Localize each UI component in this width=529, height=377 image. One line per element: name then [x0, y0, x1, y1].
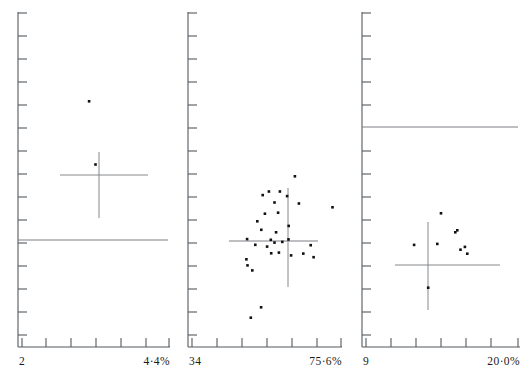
data-point: [88, 100, 91, 103]
data-point: [246, 264, 249, 267]
data-point: [260, 229, 263, 232]
data-point: [459, 248, 462, 251]
data-point: [254, 244, 257, 247]
chart-panel-1: 2 4·4%: [0, 0, 176, 377]
data-point: [256, 220, 259, 223]
data-point: [427, 286, 430, 289]
panel-2-x-min-label: 34: [189, 355, 201, 367]
data-point: [440, 212, 443, 215]
panel-1-svg: 2 4·4%: [0, 0, 176, 377]
data-point: [245, 258, 248, 261]
data-point: [275, 231, 278, 234]
figure-container: 2 4·4%: [0, 0, 529, 377]
data-point: [464, 246, 467, 249]
panel-1-x-ticks: [22, 338, 169, 347]
data-point: [466, 252, 469, 255]
data-point: [413, 244, 416, 247]
panel-1-x-max-label: 4·4%: [143, 355, 170, 367]
panel-3-cross-marker: [395, 222, 500, 310]
panel-2-y-ticks: [188, 13, 197, 335]
panel-2-x-ticks: [192, 338, 341, 347]
panel-2-svg: 34 75·6%: [176, 0, 352, 377]
panel-3-data-points: [413, 212, 469, 289]
data-point: [302, 252, 305, 255]
data-point: [264, 212, 267, 215]
panel-2-x-max-label: 75·6%: [309, 355, 342, 367]
data-point: [250, 316, 253, 319]
data-point: [260, 306, 263, 309]
data-point: [273, 241, 276, 244]
panel-3-y-ticks: [362, 13, 371, 335]
panel-3-svg: 9 20·0%: [350, 0, 529, 377]
panel-1-x-min-label: 2: [19, 355, 25, 367]
data-point: [456, 229, 459, 232]
data-point: [279, 190, 282, 193]
data-point: [251, 269, 254, 272]
data-point: [287, 238, 290, 241]
panel-3-x-ticks: [366, 338, 518, 347]
data-point: [312, 256, 315, 259]
data-point: [270, 252, 273, 255]
data-point: [270, 239, 273, 242]
panel-3-x-min-label: 9: [363, 355, 369, 367]
data-point: [309, 244, 312, 247]
data-point: [94, 163, 97, 166]
panel-1-data-points: [88, 100, 97, 166]
panel-3-x-max-label: 20·0%: [487, 355, 520, 367]
data-point: [298, 202, 301, 205]
data-point: [278, 251, 281, 254]
data-point: [294, 175, 297, 178]
panel-2-data-points: [245, 175, 334, 319]
data-point: [273, 201, 276, 204]
data-point: [277, 211, 280, 214]
data-point: [266, 245, 269, 248]
data-point: [286, 195, 289, 198]
data-point: [290, 254, 293, 257]
data-point: [261, 194, 264, 197]
chart-panel-2: 34 75·6%: [176, 0, 352, 377]
panel-1-cross-marker: [60, 152, 148, 218]
data-point: [246, 238, 249, 241]
data-point: [287, 225, 290, 228]
panel-1-y-ticks: [18, 13, 27, 335]
data-point: [281, 241, 284, 244]
data-point: [268, 190, 271, 193]
chart-panel-3: 9 20·0%: [350, 0, 526, 377]
data-point: [331, 206, 334, 209]
data-point: [436, 243, 439, 246]
